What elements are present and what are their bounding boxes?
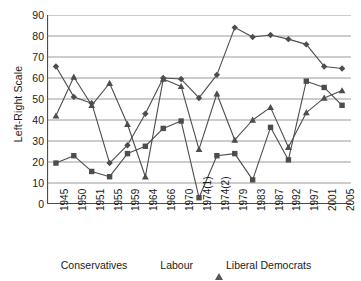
legend-entry[interactable]: Labour: [149, 259, 193, 271]
triangle-marker: [213, 90, 220, 96]
square-marker: [125, 151, 130, 156]
square-marker: [196, 195, 201, 200]
x-tick-label: 2001: [328, 189, 338, 211]
plot-area: [47, 15, 351, 204]
triangle-marker: [53, 112, 60, 118]
x-tick-label: 1950: [78, 189, 88, 211]
x-tick-label: 2005: [346, 189, 356, 211]
diamond-marker: [339, 65, 345, 71]
left-right-scale-chart: Left-Right Scale 9080706050403020100 194…: [0, 0, 361, 281]
square-marker: [304, 78, 309, 83]
square-marker: [250, 177, 255, 182]
square-marker: [268, 125, 273, 130]
square-marker: [53, 160, 58, 165]
x-tick-label: 1983: [257, 189, 267, 211]
x-tick-label: 1974(1): [203, 177, 213, 211]
x-tick-label: 1964: [149, 189, 159, 211]
square-marker: [321, 85, 326, 90]
triangle-marker: [267, 104, 274, 110]
square-marker: [232, 151, 237, 156]
y-tick-label: 50: [18, 94, 44, 104]
series-conservatives: [53, 24, 346, 166]
x-tick-label: 1970: [185, 189, 195, 211]
legend-entry[interactable]: Liberal Democrats: [215, 259, 311, 271]
diamond-marker: [249, 34, 255, 40]
triangle-marker: [196, 146, 203, 152]
y-tick-label: 40: [18, 115, 44, 125]
triangle-marker: [70, 74, 77, 80]
x-tick-label: 1959: [131, 189, 141, 211]
square-marker: [161, 126, 166, 131]
x-tick-label: 1992: [292, 189, 302, 211]
square-marker: [89, 169, 94, 174]
y-tick-label: 60: [18, 73, 44, 83]
square-marker: [339, 103, 344, 108]
legend-entry[interactable]: Conservatives: [50, 259, 128, 271]
diamond-marker: [285, 36, 291, 42]
triangle-marker: [124, 121, 131, 127]
x-tick-label: 1945: [60, 189, 70, 211]
triangle-marker: [106, 80, 113, 86]
square-marker: [214, 153, 219, 158]
x-tick-label: 1979: [239, 189, 249, 211]
plot-svg: [47, 15, 351, 204]
legend-label: Labour: [160, 259, 193, 271]
triangle-marker: [178, 83, 185, 89]
y-tick-label: 10: [18, 178, 44, 188]
triangle-marker: [321, 95, 328, 101]
y-tick-label: 80: [18, 31, 44, 41]
diamond-marker: [232, 24, 238, 30]
x-tick-label: 1966: [167, 189, 177, 211]
x-tick-label: 1974(2): [221, 177, 231, 211]
x-tick-label: 1951: [96, 189, 106, 211]
x-tick-label: 1955: [114, 189, 124, 211]
triangle-marker: [215, 261, 223, 269]
y-tick-label: 70: [18, 52, 44, 62]
square-marker: [178, 118, 183, 123]
diamond-marker: [53, 63, 59, 69]
legend-label: Conservatives: [61, 259, 128, 271]
x-axis-tick-labels: 194519501951195519591964196619701974(1)1…: [47, 204, 351, 259]
chart-legend: ConservativesLabourLiberal Democrats: [0, 259, 361, 271]
square-marker: [149, 261, 157, 269]
y-tick-label: 20: [18, 157, 44, 167]
diamond-marker: [267, 32, 273, 38]
triangle-marker: [339, 87, 346, 93]
diamond-marker: [50, 261, 58, 269]
series-liberal-democrats: [53, 74, 346, 180]
x-tick-label: 1987: [275, 189, 285, 211]
diamond-marker: [142, 111, 148, 117]
square-marker: [143, 144, 148, 149]
y-tick-label: 30: [18, 136, 44, 146]
y-axis-tick-labels: 9080706050403020100: [18, 0, 44, 281]
y-tick-label: 0: [18, 199, 44, 209]
square-marker: [107, 174, 112, 179]
x-tick-label: 1997: [310, 189, 320, 211]
square-marker: [71, 153, 76, 158]
y-tick-label: 90: [18, 10, 44, 20]
triangle-marker: [142, 173, 149, 179]
square-marker: [286, 157, 291, 162]
legend-label: Liberal Democrats: [226, 259, 311, 271]
